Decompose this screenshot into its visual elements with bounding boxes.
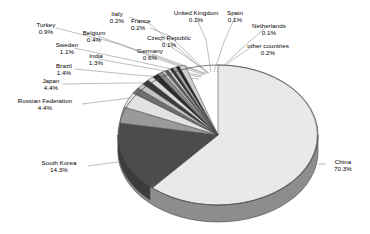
label-brazil: Brazil 1.4% <box>45 62 83 77</box>
label-other-countries-name: other countries <box>232 42 304 49</box>
label-italy-value: 0.2% <box>102 17 132 24</box>
label-belgium-name: Belgium <box>72 29 116 36</box>
label-spain-name: Spain <box>218 9 252 16</box>
label-india-name: India <box>78 52 114 59</box>
label-turkey-value: 0.9% <box>25 28 67 35</box>
label-japan: Japan 4.4% <box>32 77 70 92</box>
label-italy-name: Italy <box>102 10 132 17</box>
label-india-value: 1.3% <box>78 59 114 66</box>
label-italy: Italy 0.2% <box>102 10 132 25</box>
label-germany-value: 0.6% <box>128 54 172 61</box>
label-china: China 70.3% <box>326 158 360 173</box>
pie-top-surface <box>118 65 318 205</box>
label-india: India 1.3% <box>78 52 114 67</box>
label-other-countries-value: 0.2% <box>232 49 304 56</box>
label-brazil-name: Brazil <box>45 62 83 69</box>
label-germany: Germany 0.6% <box>128 47 172 62</box>
pie-chart-figure: Turkey 0.9% Italy 0.2% France 0.2% Unite… <box>0 0 370 234</box>
label-south-korea-value: 14.3% <box>30 166 88 173</box>
label-japan-value: 4.4% <box>32 84 70 91</box>
label-other-countries: other countries 0.2% <box>232 42 304 57</box>
label-china-name: China <box>326 158 360 165</box>
label-germany-name: Germany <box>128 47 172 54</box>
label-china-value: 70.3% <box>326 165 360 172</box>
label-sweden-name: Sweden <box>45 41 89 48</box>
label-russian-federation-value: 4.4% <box>8 104 82 111</box>
label-czech-republic-name: Czech Republic <box>138 34 200 41</box>
label-south-korea: South Korea 14.3% <box>30 159 88 174</box>
label-south-korea-name: South Korea <box>30 159 88 166</box>
label-netherlands: Netherlands 0.1% <box>238 22 300 37</box>
label-netherlands-value: 0.1% <box>238 29 300 36</box>
label-russian-federation-name: Russian Federation <box>8 97 82 104</box>
label-japan-name: Japan <box>32 77 70 84</box>
label-netherlands-name: Netherlands <box>238 22 300 29</box>
label-brazil-value: 1.4% <box>45 69 83 76</box>
label-turkey: Turkey 0.9% <box>25 21 67 36</box>
label-turkey-name: Turkey <box>25 21 67 28</box>
label-france-value: 0.2% <box>131 24 163 31</box>
label-russian-federation: Russian Federation 4.4% <box>8 97 82 112</box>
